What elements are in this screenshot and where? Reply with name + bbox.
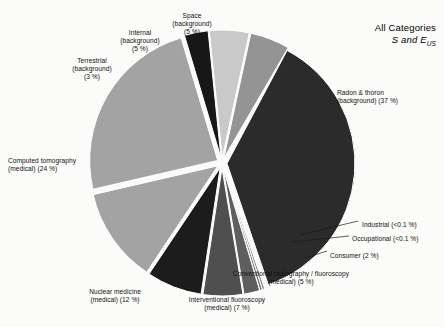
slice-label-industrial: Industrial (<0.1 %) bbox=[362, 221, 417, 229]
slice-label-nuclear-medicine-line2: (medical) (12 %) bbox=[45, 296, 185, 304]
slice-label-computed-tomography: Computed tomography(medical) (24 %) bbox=[8, 157, 76, 173]
slice-label-terrestrial: Terrestrial(background)(3 %) bbox=[22, 57, 162, 82]
slice-label-nuclear-medicine: Nuclear medicine(medical) (12 %) bbox=[45, 288, 185, 304]
slice-label-radon-thoron-line1: Radon & thoron bbox=[337, 89, 398, 97]
slice-label-nuclear-medicine-line1: Nuclear medicine bbox=[45, 288, 185, 296]
slice-label-space-line2: (background) bbox=[122, 20, 262, 28]
chart-title: All Categories S and EUS bbox=[375, 22, 436, 50]
slice-label-internal-line3: (5 %) bbox=[70, 45, 210, 53]
slice-label-consumer-line1: Consumer (2 %) bbox=[330, 252, 379, 260]
slice-label-occupational-line1: Occupational (<0.1 %) bbox=[352, 235, 418, 243]
slice-label-space-line3: (5 %) bbox=[122, 28, 262, 36]
chart-title-line2: S and EUS bbox=[375, 34, 436, 50]
slice-label-conventional-radiography-line1: Conventional radiography / fluoroscopy bbox=[221, 270, 361, 278]
slice-label-conventional-radiography-line2: (medical) (5 %) bbox=[221, 278, 361, 286]
slice-label-terrestrial-line3: (3 %) bbox=[22, 73, 162, 81]
slice-label-industrial-line1: Industrial (<0.1 %) bbox=[362, 221, 417, 229]
slice-label-computed-tomography-line2: (medical) (24 %) bbox=[8, 165, 76, 173]
symbol-e-subscript: US bbox=[427, 40, 436, 47]
slice-label-occupational: Occupational (<0.1 %) bbox=[352, 235, 418, 243]
title-and: and bbox=[398, 34, 420, 45]
slice-label-terrestrial-line1: Terrestrial bbox=[22, 57, 162, 65]
slice-label-conventional-radiography: Conventional radiography / fluoroscopy(m… bbox=[221, 270, 361, 286]
slice-label-internal-line2: (background) bbox=[70, 37, 210, 45]
slice-label-interventional-fluoroscopy-line2: (medical) (7 %) bbox=[157, 304, 297, 312]
slice-label-space: Space(background)(5 %) bbox=[122, 12, 262, 37]
slice-label-computed-tomography-line1: Computed tomography bbox=[8, 157, 76, 165]
slice-label-radon-thoron-line2: (background) (37 %) bbox=[337, 97, 398, 105]
slice-label-space-line1: Space bbox=[122, 12, 262, 20]
slice-label-radon-thoron: Radon & thoron(background) (37 %) bbox=[337, 89, 398, 105]
slice-label-terrestrial-line2: (background) bbox=[22, 65, 162, 73]
chart-canvas: All Categories S and EUS Radon & thoron(… bbox=[0, 0, 444, 327]
slice-label-consumer: Consumer (2 %) bbox=[330, 252, 379, 260]
chart-title-line1: All Categories bbox=[375, 22, 436, 34]
